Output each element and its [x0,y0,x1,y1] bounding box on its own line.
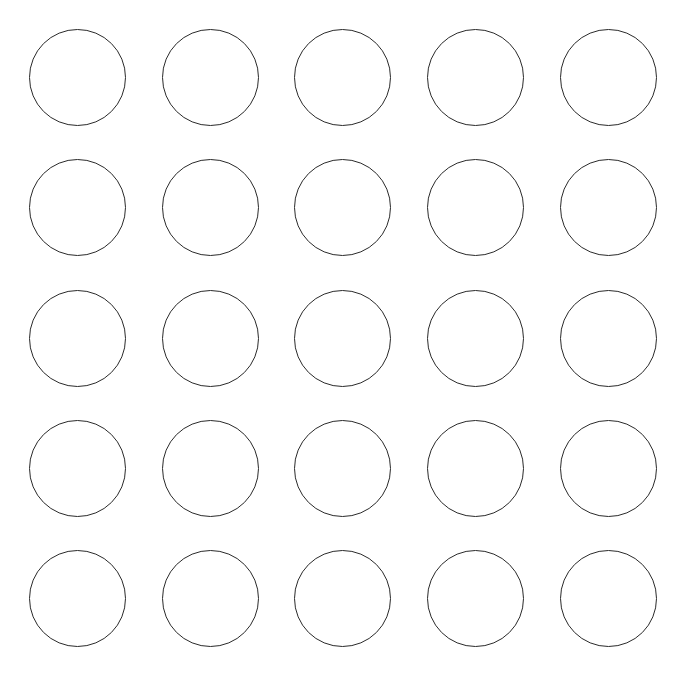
circle-r3-c5 [560,290,657,387]
circle-r2-c3 [294,159,391,256]
circle-r5-c5 [560,550,657,647]
circle-r5-c1 [29,550,126,647]
circle-grid [0,0,692,679]
circle-r2-c5 [560,159,657,256]
circle-r3-c3 [294,290,391,387]
circle-r5-c4 [427,550,524,647]
circle-r2-c1 [29,159,126,256]
circle-r4-c1 [29,420,126,517]
circle-r5-c3 [294,550,391,647]
circle-r5-c2 [162,550,259,647]
circle-r3-c2 [162,290,259,387]
circle-r3-c1 [29,290,126,387]
circle-r4-c4 [427,420,524,517]
circle-r4-c2 [162,420,259,517]
circle-r1-c1 [29,29,126,126]
circle-r3-c4 [427,290,524,387]
circle-r4-c3 [294,420,391,517]
circle-r1-c5 [560,29,657,126]
circle-r1-c4 [427,29,524,126]
circle-r2-c4 [427,159,524,256]
circle-r1-c3 [294,29,391,126]
circle-r1-c2 [162,29,259,126]
circle-r4-c5 [560,420,657,517]
circle-r2-c2 [162,159,259,256]
